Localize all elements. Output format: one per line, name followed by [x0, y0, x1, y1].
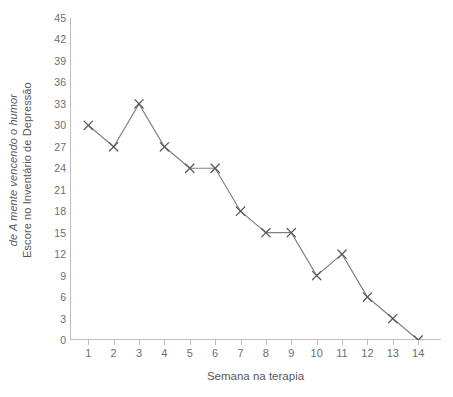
x-axis-tick-mark: [266, 340, 267, 345]
y-axis-tick-label: 0: [40, 334, 66, 346]
y-axis-tick-label: 15: [40, 227, 66, 239]
x-axis-tick-label: 7: [237, 347, 243, 359]
x-axis-tick-mark: [164, 340, 165, 345]
x-axis-tick-mark: [139, 340, 140, 345]
y-axis-tick-label: 42: [40, 33, 66, 45]
x-axis-tick-label: 6: [212, 347, 218, 359]
x-axis-tick-labels: 1234567891011121314: [70, 347, 441, 363]
x-axis-tick-label: 3: [136, 347, 142, 359]
x-axis-tick-mark: [215, 340, 216, 345]
x-axis-tick-mark: [291, 340, 292, 345]
y-axis-tick-label: 9: [40, 270, 66, 282]
data-point-marker: [109, 143, 117, 151]
x-axis-tick-label: 2: [111, 347, 117, 359]
y-axis-tick-label: 36: [40, 76, 66, 88]
y-axis-tick-label: 39: [40, 55, 66, 67]
x-axis-tick-label: 13: [387, 347, 399, 359]
x-axis-tick-mark: [418, 340, 419, 345]
data-point-marker: [363, 293, 371, 301]
x-axis-tick-label: 4: [161, 347, 167, 359]
x-axis-tick-label: 14: [412, 347, 424, 359]
y-axis-title-line2: de A mente vencendo o humor: [6, 94, 20, 246]
y-axis-tick-label: 3: [40, 313, 66, 325]
x-axis-tick-label: 5: [187, 347, 193, 359]
x-axis-tick-label: 1: [85, 347, 91, 359]
data-point-marker: [312, 271, 320, 279]
x-axis-tick-mark: [367, 340, 368, 345]
x-axis-tick-marks: [70, 340, 441, 346]
x-axis-tick-mark: [317, 340, 318, 345]
y-axis-tick-label: 6: [40, 291, 66, 303]
y-axis-tick-labels: 4542393633302724211815129630: [40, 0, 66, 397]
y-axis-tick-label: 33: [40, 98, 66, 110]
y-axis-title-line1: Escore no Inventário de Depressão: [20, 82, 34, 258]
x-axis-tick-mark: [88, 340, 89, 345]
y-axis-tick-label: 21: [40, 184, 66, 196]
y-axis-tick-label: 30: [40, 119, 66, 131]
x-axis-tick-label: 11: [336, 347, 347, 359]
data-point-marker: [236, 207, 244, 215]
data-point-marker: [135, 100, 143, 108]
x-axis-tick-mark: [342, 340, 343, 345]
depression-score-line-chart: Escore no Inventário de Depressão de A m…: [0, 0, 453, 397]
y-axis-tick-label: 18: [40, 205, 66, 217]
data-point-marker: [84, 121, 92, 129]
x-axis-title: Semana na terapia: [70, 370, 441, 382]
plot-area: [70, 18, 441, 340]
x-axis-tick-mark: [393, 340, 394, 345]
data-point-marker: [389, 314, 397, 322]
y-axis-title-rotated: Escore no Inventário de Depressão de A m…: [6, 82, 34, 258]
y-axis-tick-label: 24: [40, 162, 66, 174]
data-point-marker: [338, 250, 346, 258]
x-axis-tick-label: 8: [263, 347, 269, 359]
x-axis-tick-mark: [241, 340, 242, 345]
data-point-marker: [160, 143, 168, 151]
x-axis-tick-mark: [114, 340, 115, 345]
y-axis-tick-label: 12: [40, 248, 66, 260]
x-axis-tick-mark: [190, 340, 191, 345]
x-axis-tick-label: 9: [288, 347, 294, 359]
series-line: [88, 104, 418, 340]
y-axis-tick-label: 45: [40, 12, 66, 24]
data-series-svg: [70, 18, 441, 340]
y-axis-title: Escore no Inventário de Depressão de A m…: [0, 0, 40, 340]
y-axis-tick-label: 27: [40, 141, 66, 153]
x-axis-tick-label: 10: [311, 347, 323, 359]
x-axis-tick-label: 12: [361, 347, 373, 359]
